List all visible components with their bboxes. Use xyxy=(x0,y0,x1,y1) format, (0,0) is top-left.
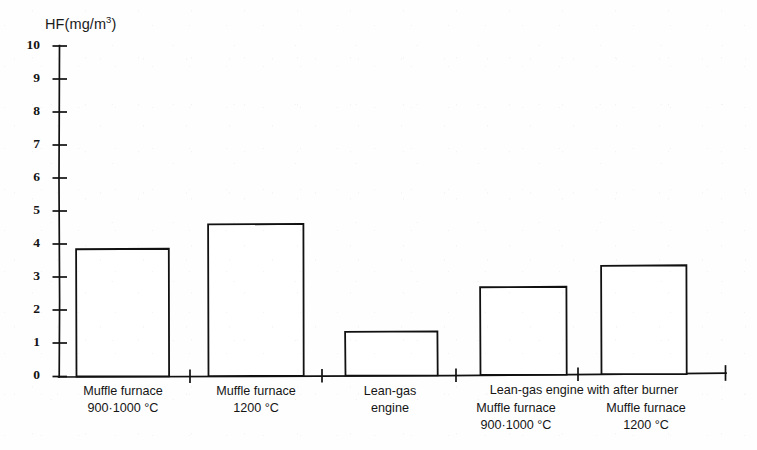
x-category-label-1: Muffle furnace 900·1000 °C xyxy=(52,383,194,416)
x-category-label-3: Lean-gas engine xyxy=(326,383,454,416)
y-tick-label-5: 5 xyxy=(14,202,40,218)
bar-4 xyxy=(480,287,567,375)
bar-1 xyxy=(76,249,169,377)
x-category-label-4-line2: 900·1000 °C xyxy=(452,417,580,434)
x-category-label-3-line2: engine xyxy=(326,400,454,417)
y-tick-label-1: 1 xyxy=(14,334,40,350)
y-tick-label-3: 3 xyxy=(14,268,40,284)
bar-5 xyxy=(601,265,687,374)
x-category-label-1-line2: 900·1000 °C xyxy=(52,400,194,417)
y-tick-label-4: 4 xyxy=(14,235,40,251)
y-tick-label-9: 9 xyxy=(14,70,40,86)
x-category-label-1-line1: Muffle furnace xyxy=(83,384,163,398)
x-category-label-5-line1: Muffle furnace xyxy=(606,401,686,415)
x-category-label-3-line1: Lean-gas xyxy=(364,384,417,398)
y-tick-label-6: 6 xyxy=(14,169,40,185)
bar-2 xyxy=(208,224,304,376)
y-tick-label-7: 7 xyxy=(14,136,40,152)
x-category-label-4-line1: Muffle furnace xyxy=(476,401,556,415)
x-category-label-5-line2: 1200 °C xyxy=(582,417,710,434)
y-tick-label-2: 2 xyxy=(14,301,40,317)
x-category-label-2: Muffle furnace 1200 °C xyxy=(185,383,327,416)
x-category-label-4: Muffle furnace 900·1000 °C xyxy=(452,400,580,433)
group-header-lean-gas-after-burner: Lean-gas engine with after burner xyxy=(446,383,722,397)
bar-3 xyxy=(345,331,438,375)
chart-page: HF(mg/m3) xyxy=(0,0,757,450)
bars xyxy=(76,224,687,377)
x-category-label-2-line1: Muffle furnace xyxy=(216,384,296,398)
x-category-label-2-line2: 1200 °C xyxy=(185,400,327,417)
x-category-label-5: Muffle furnace 1200 °C xyxy=(582,400,710,433)
y-tick-label-8: 8 xyxy=(14,103,40,119)
y-tick-label-10: 10 xyxy=(14,37,40,53)
y-tick-label-0: 0 xyxy=(14,367,40,383)
